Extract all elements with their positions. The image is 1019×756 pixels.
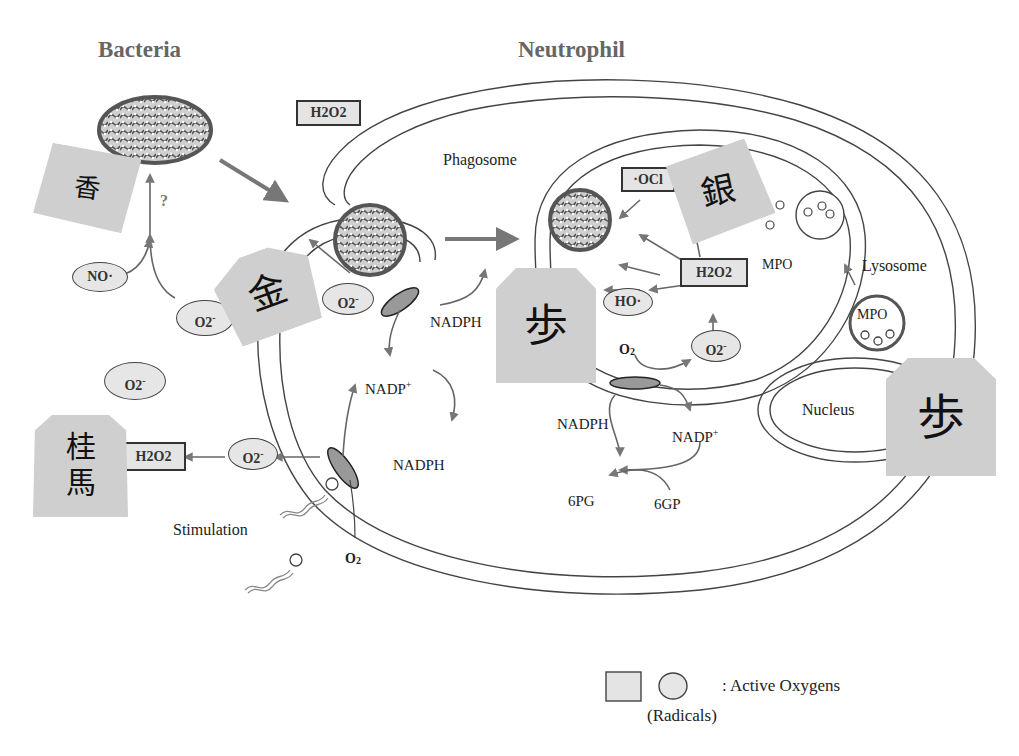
radical-superoxide-3: O2-	[104, 362, 166, 400]
radical-superoxide-phagosome: O2-	[691, 330, 741, 362]
label-lysosome: Lysosome	[862, 258, 927, 274]
label-phagosome: Phagosome	[443, 152, 517, 168]
title-neutrophil: Neutrophil	[518, 38, 625, 61]
shogi-piece-keima: 桂馬	[33, 415, 128, 517]
label-o2-extracellular: O2	[345, 552, 361, 566]
species-h2o2-left: H2O2	[121, 442, 186, 471]
label-nadp-phagosome: NADP+	[672, 428, 718, 445]
label-nucleus: Nucleus	[802, 402, 854, 418]
legend-label: : Active Oxygens	[722, 677, 840, 694]
label-nadp-left: NADP+	[365, 380, 411, 397]
label-mpo-phagosome: MPO	[762, 258, 792, 272]
lysosome	[850, 296, 904, 350]
radical-hydroxyl: HO·	[603, 288, 653, 316]
label-nadph-phagosome: NADPH	[557, 417, 609, 432]
label-6gp: 6GP	[654, 497, 681, 512]
shogi-piece-fu: 歩	[496, 268, 596, 383]
label-6pg: 6PG	[568, 494, 595, 509]
label-nadph-left: NADPH	[393, 458, 445, 473]
nadph-oxidase-top	[377, 283, 422, 321]
bacterium-phagocytosed	[550, 190, 610, 250]
radical-superoxide-2: O2-	[322, 283, 374, 315]
nadph-oxidase-phagosome	[610, 377, 660, 389]
radical-superoxide-4: O2-	[228, 438, 278, 470]
legend-oval	[659, 673, 687, 699]
species-h2o2-phagosome: H2O2	[680, 258, 748, 287]
legend-box	[606, 672, 641, 701]
bacterium-free	[99, 97, 211, 163]
label-question: ?	[160, 193, 168, 209]
label-mpo-lysosome: MPO	[857, 308, 887, 322]
stimulation-ligand	[245, 478, 338, 593]
legend-sublabel: (Radicals)	[647, 707, 717, 724]
title-bacteria: Bacteria	[98, 38, 181, 61]
species-hypochlorite: ·OCl	[621, 167, 675, 192]
bacterium-engulfing	[335, 205, 405, 275]
label-o2-phagosome: O2	[619, 343, 635, 357]
label-nadph-top: NADPH	[430, 315, 482, 330]
lysosome-fusing	[796, 191, 844, 239]
label-stimulation: Stimulation	[173, 522, 248, 538]
shogi-piece-fu-right: 歩	[886, 358, 996, 476]
species-h2o2-extracellular: H2O2	[296, 100, 361, 126]
radical-nitric-oxide: NO·	[72, 262, 128, 292]
